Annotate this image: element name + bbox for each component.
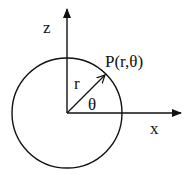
point-label: P(r,θ) [105, 52, 143, 71]
z-axis-label: z [43, 18, 51, 37]
angle-label: θ [88, 95, 96, 114]
radius-vector [67, 75, 105, 113]
x-axis-label: x [150, 119, 159, 138]
radius-label: r [74, 74, 80, 93]
polar-coordinate-diagram: z P(r,θ) r θ x [0, 0, 193, 175]
